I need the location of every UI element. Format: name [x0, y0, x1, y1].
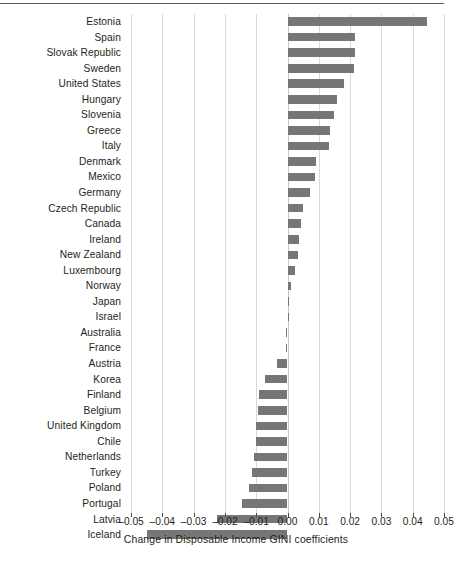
top-rule — [0, 3, 444, 4]
category-label: Estonia — [0, 14, 126, 30]
category-label: Norway — [0, 278, 126, 294]
bar-row — [131, 30, 444, 46]
gridline — [444, 14, 445, 513]
bar — [288, 282, 292, 291]
bar — [249, 484, 287, 493]
bars-container — [131, 14, 444, 513]
category-label: Canada — [0, 216, 126, 232]
bar-row — [131, 92, 444, 108]
bar-row — [131, 465, 444, 481]
bar — [242, 499, 287, 508]
category-label: Australia — [0, 325, 126, 341]
bar-row — [131, 216, 444, 232]
category-label: Finland — [0, 387, 126, 403]
bar — [265, 375, 288, 384]
category-label: Germany — [0, 185, 126, 201]
bar-row — [131, 232, 444, 248]
x-axis-ticks — [131, 513, 444, 515]
x-axis-tick-labels: –0.05–0.04–0.03–0.02–0.010.000.010.020.0… — [0, 516, 444, 532]
x-axis-title-text: Change in Disposable Income GINI coeffic… — [96, 534, 348, 545]
bar — [288, 173, 316, 182]
category-label: Slovenia — [0, 107, 126, 123]
category-label: Mexico — [0, 169, 126, 185]
bar-row — [131, 263, 444, 279]
bar — [288, 313, 289, 322]
category-label: United Kingdom — [0, 418, 126, 434]
bar — [286, 328, 287, 337]
bar — [288, 266, 296, 275]
category-label: Chile — [0, 434, 126, 450]
x-axis-title: Change in Disposable Income GINI coeffic… — [0, 534, 444, 545]
category-label: Japan — [0, 294, 126, 310]
bar — [288, 219, 301, 228]
bar — [288, 64, 354, 73]
bar — [288, 79, 344, 88]
category-label: Spain — [0, 30, 126, 46]
bar-row — [131, 356, 444, 372]
bar — [256, 422, 287, 431]
category-axis-labels: EstoniaSpainSlovak RepublicSwedenUnited … — [0, 14, 126, 543]
bar — [288, 188, 311, 197]
bar-row — [131, 138, 444, 154]
bar-row — [131, 403, 444, 419]
category-label: Denmark — [0, 154, 126, 170]
x-tick-label: 0.05 — [421, 516, 459, 527]
bar-row — [131, 449, 444, 465]
bar-row — [131, 340, 444, 356]
bar — [258, 406, 288, 415]
bar-row — [131, 294, 444, 310]
bar — [288, 17, 427, 26]
bar — [288, 111, 335, 120]
category-label: Ireland — [0, 232, 126, 248]
bar — [288, 235, 300, 244]
category-label: New Zealand — [0, 247, 126, 263]
category-label: Portugal — [0, 496, 126, 512]
bar-row — [131, 201, 444, 217]
bar — [288, 48, 355, 57]
bar-row — [131, 76, 444, 92]
bar — [288, 204, 303, 213]
bar — [277, 359, 288, 368]
bar-row — [131, 325, 444, 341]
bar — [288, 297, 289, 306]
category-label: Hungary — [0, 92, 126, 108]
category-label: Turkey — [0, 465, 126, 481]
category-label: Luxembourg — [0, 263, 126, 279]
bar-row — [131, 61, 444, 77]
bar-row — [131, 107, 444, 123]
bar — [288, 157, 317, 166]
category-label: Czech Republic — [0, 201, 126, 217]
category-label: Italy — [0, 138, 126, 154]
bar-row — [131, 14, 444, 30]
bar-row — [131, 247, 444, 263]
bar — [288, 126, 330, 135]
category-label: Poland — [0, 480, 126, 496]
bar-row — [131, 480, 444, 496]
category-label: Sweden — [0, 61, 126, 77]
bar — [288, 142, 330, 151]
bar-row — [131, 387, 444, 403]
category-label: Korea — [0, 372, 126, 388]
bar-row — [131, 45, 444, 61]
bar — [288, 33, 355, 42]
bar — [288, 95, 337, 104]
bar — [252, 468, 288, 477]
bar-row — [131, 418, 444, 434]
bar — [254, 453, 288, 462]
bar-row — [131, 496, 444, 512]
bar — [288, 251, 299, 260]
bar-row — [131, 278, 444, 294]
bar — [286, 344, 288, 353]
category-label: Israel — [0, 309, 126, 325]
bar-row — [131, 309, 444, 325]
bar-row — [131, 185, 444, 201]
category-label: United States — [0, 76, 126, 92]
bar-row — [131, 154, 444, 170]
category-label: Slovak Republic — [0, 45, 126, 61]
category-label: Greece — [0, 123, 126, 139]
category-label: Netherlands — [0, 449, 126, 465]
bar — [256, 437, 288, 446]
bar-row — [131, 123, 444, 139]
bar — [259, 390, 287, 399]
